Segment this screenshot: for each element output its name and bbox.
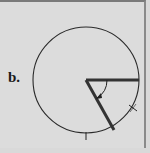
- angle-arc: [97, 80, 107, 98]
- circle-angle-diagram: [0, 2, 150, 153]
- figure-panel: b.: [0, 0, 146, 148]
- angled-arm: [86, 80, 114, 130]
- arrowhead-icon: [96, 93, 102, 99]
